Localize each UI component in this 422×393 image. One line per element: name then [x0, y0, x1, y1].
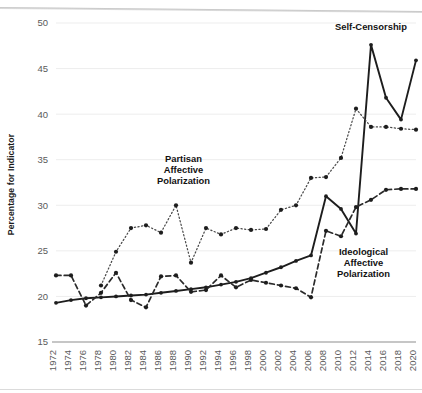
- data-point-0-2002: [279, 265, 283, 269]
- data-point-2-2008: [324, 229, 328, 233]
- x-tick-label-1992: 1992: [197, 350, 208, 371]
- x-tick-label-1996: 1996: [227, 350, 238, 371]
- data-point-0-2016: [384, 96, 388, 100]
- data-point-2-1974: [69, 273, 73, 277]
- x-tick-label-2008: 2008: [317, 350, 328, 371]
- x-tick-label-1978: 1978: [92, 350, 103, 371]
- data-point-2-2018: [399, 187, 403, 191]
- data-point-1-2018: [399, 127, 403, 131]
- data-point-2-1980: [114, 271, 118, 275]
- data-point-1-2004: [294, 203, 298, 207]
- y-tick-label-35: 35: [37, 154, 48, 165]
- data-point-2-1978: [99, 291, 103, 295]
- y-tick-label-25: 25: [37, 245, 48, 256]
- data-point-2-2016: [384, 188, 388, 192]
- data-point-1-1980: [114, 250, 118, 254]
- data-point-1-2016: [384, 125, 388, 129]
- scan-page-edge-bottom: [0, 389, 422, 390]
- data-point-1-1992: [204, 226, 208, 230]
- x-tick-label-2006: 2006: [302, 350, 313, 371]
- data-point-2-2004: [294, 286, 298, 290]
- data-point-1-1994: [219, 232, 223, 236]
- y-tick-label-20: 20: [37, 291, 48, 302]
- data-point-1-1984: [144, 223, 148, 227]
- x-tick-label-1998: 1998: [242, 350, 253, 371]
- x-tick-label-2000: 2000: [257, 350, 268, 371]
- y-tick-label-15: 15: [37, 336, 48, 347]
- x-tick-label-2020: 2020: [407, 350, 418, 371]
- data-point-0-2014: [369, 43, 373, 47]
- data-point-2-2006: [309, 295, 313, 299]
- data-point-1-2020: [414, 128, 418, 132]
- series-annotation-1-line-1: Affective: [164, 164, 204, 175]
- data-point-0-2010: [339, 207, 343, 211]
- data-point-0-2008: [324, 194, 328, 198]
- series-annotation-2-line-0: Ideological: [339, 246, 388, 257]
- data-point-0-1994: [219, 283, 223, 287]
- x-tick-label-1986: 1986: [152, 350, 163, 371]
- chart-container: 1520253035404550197219741976197819801982…: [0, 0, 422, 393]
- data-point-0-1978: [99, 295, 103, 299]
- data-point-2-2002: [279, 283, 283, 287]
- data-point-0-2018: [399, 118, 403, 122]
- data-point-1-1982: [129, 226, 133, 230]
- x-tick-label-2016: 2016: [377, 350, 388, 371]
- data-point-1-2002: [279, 208, 283, 212]
- data-point-2-1972: [54, 273, 58, 277]
- y-tick-label-30: 30: [37, 200, 48, 211]
- data-point-2-2020: [414, 187, 418, 191]
- data-point-0-1972: [54, 301, 58, 305]
- x-tick-label-1994: 1994: [212, 350, 223, 371]
- data-point-0-2000: [264, 271, 268, 275]
- data-point-0-2012: [354, 232, 358, 236]
- x-tick-label-1976: 1976: [77, 350, 88, 371]
- y-tick-label-50: 50: [37, 17, 48, 28]
- data-point-2-1984: [144, 305, 148, 309]
- data-point-0-2004: [294, 259, 298, 263]
- x-tick-label-2018: 2018: [392, 350, 403, 371]
- data-point-1-1996: [234, 226, 238, 230]
- data-point-1-2010: [339, 156, 343, 160]
- series-annotation-2-line-1: Affective: [344, 257, 384, 268]
- x-tick-label-1980: 1980: [107, 350, 118, 371]
- data-point-2-1996: [234, 285, 238, 289]
- data-point-2-1992: [204, 288, 208, 292]
- data-point-0-1976: [84, 296, 88, 300]
- x-tick-label-1974: 1974: [62, 350, 73, 371]
- data-point-0-1984: [144, 293, 148, 297]
- x-tick-label-2012: 2012: [347, 350, 358, 371]
- x-tick-label-1984: 1984: [137, 350, 148, 371]
- series-annotation-2-line-2: Polarization: [337, 268, 390, 279]
- data-point-2-1988: [174, 273, 178, 277]
- data-point-2-1998: [249, 278, 253, 282]
- data-point-1-2012: [354, 107, 358, 111]
- series-annotation-1-line-0: Partisan: [165, 153, 202, 164]
- data-point-0-1996: [234, 280, 238, 284]
- data-point-0-1982: [129, 294, 133, 298]
- data-point-1-2000: [264, 227, 268, 231]
- x-tick-label-1988: 1988: [167, 350, 178, 371]
- data-point-1-1998: [249, 228, 253, 232]
- x-tick-label-2010: 2010: [332, 350, 343, 371]
- x-tick-label-1990: 1990: [182, 350, 193, 371]
- data-point-0-1986: [159, 291, 163, 295]
- data-point-0-2020: [414, 58, 418, 62]
- data-point-0-2006: [309, 254, 313, 258]
- y-axis-title: Percentage for Indicator: [6, 133, 16, 235]
- data-point-2-1990: [189, 290, 193, 294]
- data-point-0-1974: [69, 298, 73, 302]
- data-point-2-2012: [354, 205, 358, 209]
- data-point-2-1994: [219, 273, 223, 277]
- data-point-2-1982: [129, 298, 133, 302]
- x-tick-label-2004: 2004: [287, 350, 298, 371]
- x-tick-label-1972: 1972: [47, 350, 58, 371]
- data-point-1-1988: [174, 203, 178, 207]
- x-tick-label-2014: 2014: [362, 350, 373, 371]
- data-point-2-2014: [369, 198, 373, 202]
- data-point-2-1986: [159, 274, 163, 278]
- y-tick-label-40: 40: [37, 109, 48, 120]
- data-point-2-2000: [264, 281, 268, 285]
- data-point-1-1986: [159, 231, 163, 235]
- data-point-0-1988: [174, 289, 178, 293]
- data-point-1-2014: [369, 125, 373, 129]
